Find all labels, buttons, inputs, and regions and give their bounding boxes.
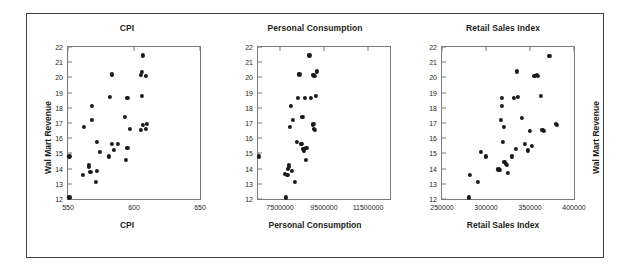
y-tick-mark [258, 47, 262, 48]
y-tick-mark [442, 92, 446, 93]
y-tick-label: 14 [55, 165, 68, 172]
scatter-point [514, 147, 518, 151]
scatter-point [528, 129, 532, 133]
y-tick-label: 13 [429, 180, 442, 187]
scatter-point [484, 154, 488, 158]
x-tick-label: 11500000 [353, 204, 384, 211]
x-axis-label-retail-sales-index: Retail Sales Index [401, 220, 605, 230]
scatter-point [95, 169, 99, 173]
y-tick-label: 16 [55, 135, 68, 142]
scatter-point [538, 94, 542, 98]
y-tick-label: 21 [245, 59, 258, 66]
scatter-point [94, 180, 98, 184]
y-tick-mark [442, 199, 446, 200]
scatter-point [498, 168, 502, 172]
scatter-point [506, 171, 510, 175]
scatter-point [468, 173, 472, 177]
x-tick-mark [280, 47, 281, 51]
y-tick-mark [68, 62, 72, 63]
scatter-point [141, 53, 145, 57]
x-tick-label: 350000 [518, 204, 541, 211]
scatter-point [144, 127, 148, 131]
scatter-point [80, 173, 84, 177]
y-tick-mark [442, 183, 446, 184]
y-tick-label: 18 [245, 104, 258, 111]
x-tick-label: 7500000 [266, 204, 293, 211]
scatter-point [555, 122, 559, 126]
scatter-point [82, 125, 86, 129]
x-tick-mark [68, 47, 69, 51]
x-axis-label-personal-consumption: Personal Consumption [215, 220, 415, 230]
x-tick-label: 600 [128, 204, 140, 211]
scatter-point [500, 104, 504, 108]
y-tick-mark [258, 62, 262, 63]
x-tick-mark [134, 47, 135, 51]
x-tick-mark [200, 47, 201, 51]
y-tick-mark [258, 92, 262, 93]
scatter-point [125, 96, 129, 100]
y-tick-mark [68, 77, 72, 78]
scatter-point [257, 154, 261, 158]
x-tick-label: 300000 [474, 204, 497, 211]
scatter-point [467, 195, 471, 199]
scatter-point [108, 95, 112, 99]
x-tick-label: 250000 [430, 204, 453, 211]
y-tick-label: 14 [429, 165, 442, 172]
scatter-point [516, 95, 520, 99]
y-tick-label: 19 [55, 89, 68, 96]
y-tick-mark [258, 199, 262, 200]
scatter-point [288, 104, 292, 108]
scatter-point [502, 125, 506, 129]
x-tick-mark [530, 47, 531, 51]
scatter-point [123, 115, 127, 119]
y-tick-mark [442, 107, 446, 108]
scatter-point [87, 165, 91, 169]
chart-panel-retail-sales-index: Retail Sales Index 121314151617181920212… [401, 14, 605, 259]
y-tick-mark [442, 47, 446, 48]
scatter-point [144, 74, 148, 78]
x-tick-label: 400000 [562, 204, 585, 211]
y-tick-label: 14 [245, 165, 258, 172]
y-tick-label: 18 [55, 104, 68, 111]
scatter-point [542, 129, 546, 133]
scatter-point [515, 69, 519, 73]
y-tick-label: 22 [429, 44, 442, 51]
scatter-point [109, 141, 113, 145]
scatter-point [109, 72, 113, 76]
y-tick-label: 13 [55, 180, 68, 187]
y-tick-label: 22 [55, 44, 68, 51]
y-tick-mark [442, 153, 446, 154]
x-tick-mark [574, 47, 575, 51]
y-tick-label: 17 [55, 120, 68, 127]
scatter-point [290, 169, 294, 173]
scatter-point [530, 144, 534, 148]
scatter-point [90, 118, 94, 122]
plot-area-cpi: 1213141516171819202122550600650 [67, 46, 201, 200]
scatter-point [476, 180, 480, 184]
y-tick-label: 17 [245, 120, 258, 127]
scatter-point [479, 150, 483, 154]
plot-area-personal-consumption: 1213141516171819202122750000095000001150… [257, 46, 391, 200]
scatter-point [95, 140, 99, 144]
chart-panel-personal-consumption: Personal Consumption 1213141516171819202… [215, 14, 415, 259]
y-tick-mark [442, 168, 446, 169]
scatter-point [284, 195, 288, 199]
y-tick-label: 13 [245, 180, 258, 187]
y-tick-mark [258, 183, 262, 184]
y-tick-mark [258, 168, 262, 169]
y-tick-label: 20 [245, 74, 258, 81]
chart-title-cpi: CPI [27, 23, 227, 33]
y-tick-label: 16 [245, 135, 258, 142]
scatter-point [90, 104, 94, 108]
scatter-point [536, 74, 540, 78]
y-tick-label: 19 [245, 89, 258, 96]
scatter-point [520, 116, 524, 120]
scatter-point [145, 122, 149, 126]
x-tick-mark [486, 47, 487, 51]
x-tick-mark [442, 47, 443, 51]
scatter-point [304, 146, 308, 150]
scatter-point [98, 150, 102, 154]
scatter-point [128, 127, 132, 131]
y-tick-mark [68, 107, 72, 108]
x-tick-label: 9500000 [310, 204, 337, 211]
